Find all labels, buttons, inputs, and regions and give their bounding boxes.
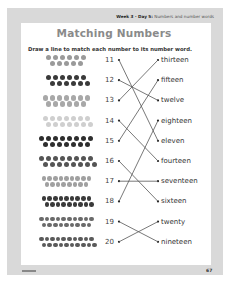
publisher-logo <box>22 270 36 272</box>
match-line-13 <box>119 60 158 100</box>
match-line-11 <box>119 60 158 141</box>
page-number: 67 <box>206 268 212 273</box>
match-line-15 <box>119 80 158 141</box>
match-line-14 <box>119 121 158 161</box>
match-line-12 <box>119 80 158 100</box>
match-lines <box>0 0 228 283</box>
match-line-18 <box>119 121 158 202</box>
